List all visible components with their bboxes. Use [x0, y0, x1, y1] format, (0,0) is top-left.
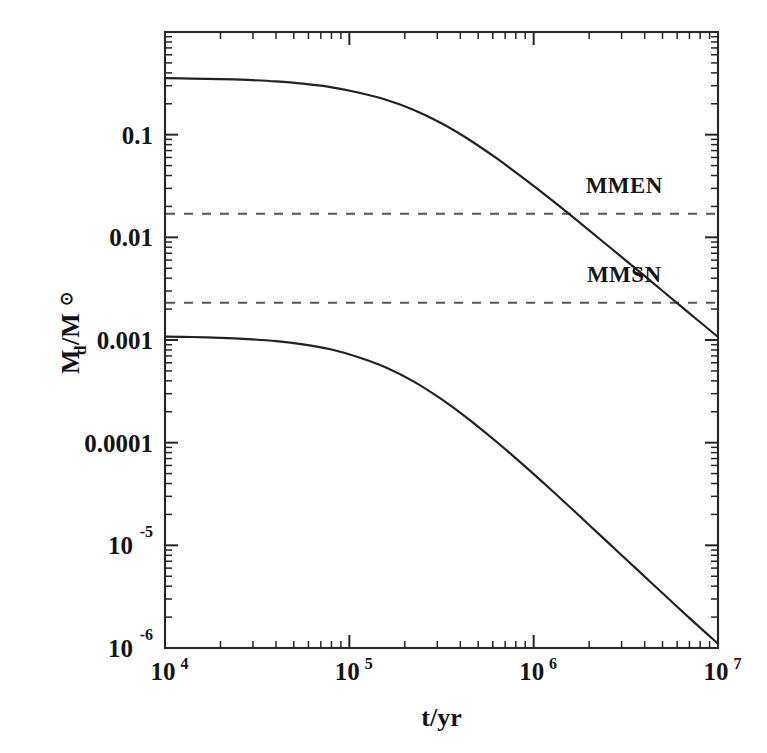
annotation-mmsn: MMSN [587, 262, 661, 287]
x-tick-label-exponent: 7 [733, 655, 741, 672]
y-tick-label-base: 10 [108, 532, 133, 559]
annotation-mmen: MMEN [586, 173, 663, 198]
y-tick-label-base: 0.0001 [84, 430, 153, 457]
y-tick-label-exponent: -5 [140, 523, 153, 540]
x-tick-label-base: 10 [704, 658, 729, 685]
y-tick-label: 0.01 [109, 224, 153, 251]
chart-plot: 104105106107 0.10.010.0010.0001-510-610 … [0, 0, 767, 753]
y-tick-label-base: 0.01 [109, 224, 153, 251]
y-tick-label-base: 10 [108, 635, 133, 662]
figure-container: 104105106107 0.10.010.0010.0001-510-610 … [0, 0, 767, 753]
y-tick-label: 0.0001 [84, 430, 153, 457]
y-tick-label: 0.001 [97, 327, 153, 354]
y-axis-title-subscript: d [71, 345, 90, 355]
y-tick-label-exponent: -6 [140, 626, 153, 643]
y-tick-label-base: 0.1 [122, 122, 153, 149]
x-axis-title: t/yr [421, 703, 461, 732]
x-tick-label-base: 10 [519, 658, 544, 685]
y-tick-label: 0.1 [122, 122, 153, 149]
y-tick-label-base: 0.001 [97, 327, 153, 354]
x-tick-label-exponent: 5 [365, 655, 373, 672]
x-tick-label-exponent: 4 [180, 655, 188, 672]
x-tick-label-base: 10 [335, 658, 360, 685]
y-axis-title-denominator: /M [56, 313, 85, 346]
x-tick-label-base: 10 [151, 658, 176, 685]
y-axis-title-sun-symbol: ⊙ [57, 292, 76, 306]
x-tick-label-exponent: 6 [549, 655, 557, 672]
